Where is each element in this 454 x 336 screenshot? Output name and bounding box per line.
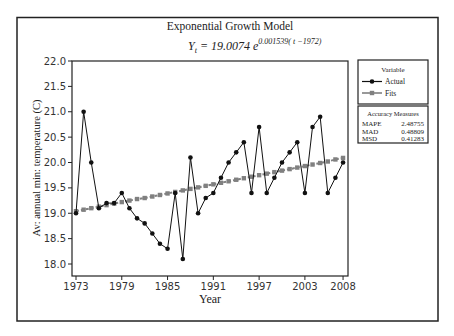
fits-marker (196, 185, 200, 189)
actual-marker (196, 211, 201, 216)
fits-marker (226, 179, 230, 183)
x-tick-label: 2008 (330, 281, 355, 292)
chart-title: Exponential Growth Model (167, 20, 293, 33)
y-tick-label: 21.0 (44, 106, 66, 117)
y-tick-label: 18.5 (44, 233, 66, 244)
chart-container: Exponential Growth Model Yt= 19.0074 e0.… (0, 0, 454, 336)
actual-marker (272, 175, 277, 180)
fits-marker (242, 176, 246, 180)
accuracy-label-msd: MSD (362, 135, 377, 143)
y-tick-label: 19.5 (44, 182, 66, 193)
fits-marker (265, 171, 269, 175)
actual-marker (295, 140, 300, 145)
fits-marker (295, 165, 299, 169)
fits-marker (280, 168, 284, 172)
x-tick-label: 1973 (63, 281, 88, 292)
actual-marker (165, 246, 170, 251)
fits-marker (158, 193, 162, 197)
legend-actual-marker-icon (370, 79, 375, 84)
x-tick-label: 2003 (292, 281, 317, 292)
y-tick-label: 22.0 (44, 56, 66, 67)
actual-marker (234, 150, 239, 155)
accuracy-value-msd: 0.41283 (401, 135, 424, 143)
actual-marker (264, 191, 269, 196)
equation-exponent: 0.001539( t −1972) (258, 37, 321, 46)
fits-marker (341, 156, 345, 160)
y-tick-label: 20.5 (44, 132, 66, 143)
actual-marker (310, 125, 315, 130)
actual-marker (181, 257, 186, 262)
x-tick-label: 1979 (109, 281, 134, 292)
actual-marker (89, 160, 94, 165)
fits-marker (142, 196, 146, 200)
actual-marker (257, 125, 262, 130)
actual-marker (287, 150, 292, 155)
actual-marker (242, 140, 247, 145)
actual-marker (226, 160, 231, 165)
fits-marker (257, 173, 261, 177)
x-tick-label: 1985 (155, 281, 180, 292)
actual-marker (150, 231, 155, 236)
actual-marker (303, 191, 308, 196)
fits-marker (188, 187, 192, 191)
legend-title: Variable (381, 66, 404, 74)
actual-marker (142, 221, 147, 226)
x-axis-label: Year (199, 292, 221, 306)
actual-marker (249, 191, 254, 196)
legend: Variable Actual Fits (358, 60, 428, 104)
actual-marker (341, 160, 346, 165)
y-axis-label: Av: annual min: temperature (C) (31, 99, 43, 236)
actual-marker (112, 201, 117, 206)
fits-marker (333, 157, 337, 161)
actual-marker (211, 191, 216, 196)
actual-marker (135, 216, 140, 221)
actual-marker (280, 160, 285, 165)
actual-marker (188, 155, 193, 160)
actual-marker (74, 211, 79, 216)
x-tick-label: 1991 (201, 281, 226, 292)
fits-marker (211, 182, 215, 186)
fits-marker (303, 164, 307, 168)
fits-marker (127, 198, 131, 202)
accuracy-title: Accuracy Measures (367, 110, 419, 117)
fits-marker (120, 200, 124, 204)
actual-marker (97, 206, 102, 211)
y-tick-label: 21.5 (44, 81, 66, 92)
accuracy-measures-box: Accuracy Measures MAPE 2.48755 MAD 0.488… (358, 106, 428, 143)
exponential-growth-chart: Exponential Growth Model Yt= 19.0074 e0.… (0, 0, 454, 336)
y-tick-label: 20.0 (44, 157, 66, 168)
actual-marker (203, 196, 208, 201)
equation-coefficient: = 19.0074 e (200, 39, 259, 53)
actual-marker (318, 115, 323, 120)
y-tick-label: 18.0 (44, 259, 66, 270)
legend-label-actual: Actual (385, 77, 405, 86)
plot-area (72, 61, 348, 276)
actual-marker (158, 241, 163, 246)
fits-marker (310, 162, 314, 166)
fits-marker (234, 178, 238, 182)
fits-marker (150, 194, 154, 198)
actual-marker (173, 191, 178, 196)
fits-marker (287, 167, 291, 171)
fits-marker (204, 184, 208, 188)
fits-marker (135, 197, 139, 201)
actual-marker (81, 109, 86, 114)
legend-label-fits: Fits (385, 89, 396, 98)
actual-marker (325, 191, 330, 196)
actual-marker (219, 175, 224, 180)
actual-marker (119, 191, 124, 196)
y-tick-label: 19.0 (44, 208, 66, 219)
fits-marker (181, 188, 185, 192)
fits-marker (165, 191, 169, 195)
fits-marker (89, 206, 93, 210)
fits-marker (318, 161, 322, 165)
actual-marker (104, 201, 109, 206)
fits-marker (81, 207, 85, 211)
actual-marker (127, 206, 132, 211)
legend-fits-marker-icon (370, 91, 374, 95)
x-tick-label: 1997 (246, 281, 271, 292)
fits-marker (326, 159, 330, 163)
actual-marker (333, 175, 338, 180)
